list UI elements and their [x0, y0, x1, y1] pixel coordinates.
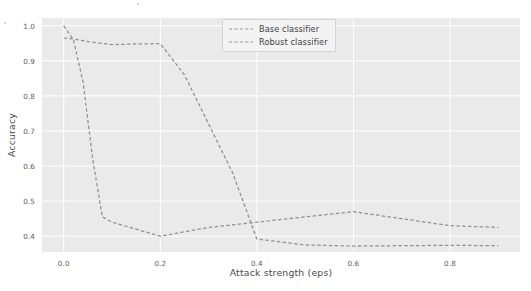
y-tick-label: 0.9	[23, 56, 35, 65]
y-tick-label: 1.0	[23, 21, 35, 30]
series-line-1	[64, 38, 499, 246]
x-tick-label: 0.6	[348, 259, 360, 268]
y-tick-label: 0.7	[23, 126, 35, 135]
x-tick-label: 0.2	[154, 259, 166, 268]
legend-label-base: Base classifier	[259, 24, 319, 34]
legend[interactable]: Base classifier Robust classifier	[222, 19, 336, 52]
figure-canvas: Accuracy Attack strength (eps) 0.40.50.6…	[0, 0, 531, 291]
legend-entry-base: Base classifier	[229, 24, 328, 34]
y-axis-label: Accuracy	[6, 113, 17, 157]
legend-line-swatch	[229, 38, 253, 46]
legend-line-swatch	[229, 25, 253, 33]
legend-entry-robust: Robust classifier	[229, 37, 328, 47]
y-tick-label: 0.5	[23, 197, 35, 206]
x-tick-label: 0.0	[58, 259, 70, 268]
data-lines	[42, 18, 520, 252]
series-line-0	[64, 26, 499, 236]
y-tick-label: 0.6	[23, 162, 35, 171]
y-tick-label: 0.8	[23, 91, 35, 100]
scan-speckle	[4, 22, 6, 24]
legend-label-robust: Robust classifier	[259, 37, 328, 47]
scan-speckle	[137, 3, 139, 5]
plot-area: 0.40.50.60.70.80.91.0 0.00.20.40.60.8 Ba…	[42, 18, 520, 252]
x-tick-label: 0.4	[251, 259, 263, 268]
x-tick-label: 0.8	[444, 259, 456, 268]
x-axis-label: Attack strength (eps)	[230, 267, 333, 278]
y-tick-label: 0.4	[23, 232, 35, 241]
